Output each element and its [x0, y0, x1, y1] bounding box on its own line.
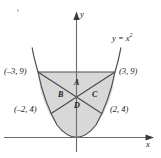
point-label-2-4: (2, 4) [110, 105, 128, 114]
point-label-3-9: (3, 9) [119, 67, 137, 76]
region-label-a: A [74, 79, 79, 87]
x-axis-label: x [146, 140, 150, 149]
region-label-d: D [74, 102, 80, 110]
math-figure-parabola: y = x2 y x (–3, 9) (3, 9) (–2, 4) (2, 4)… [0, 0, 161, 158]
point-label-neg2-4: (–2, 4) [14, 105, 37, 114]
curve-equation-label: y = x2 [112, 32, 133, 42]
y-axis-arrowhead [73, 12, 79, 21]
point-label-neg3-9: (–3, 9) [4, 67, 27, 76]
y-axis-label: y [80, 10, 84, 19]
figure-canvas [0, 0, 161, 158]
region-label-b: B [58, 91, 63, 99]
region-label-c: C [92, 91, 97, 99]
